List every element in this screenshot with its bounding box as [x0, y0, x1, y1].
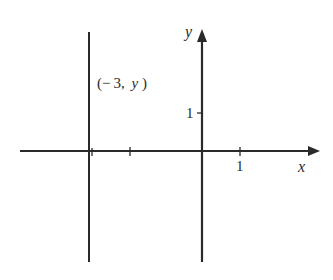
x-tick-label-1: 1 — [236, 158, 244, 174]
line-point-label: (− 3, y ) — [97, 75, 147, 92]
line-label-close: ) — [142, 75, 147, 92]
line-label-var: y — [129, 75, 138, 91]
x-axis-arrow-icon — [308, 146, 320, 156]
line-label-open: (− 3, — [97, 75, 125, 92]
y-tick-label-1: 1 — [186, 105, 194, 121]
y-axis — [197, 29, 207, 262]
y-axis-label: y — [183, 23, 193, 41]
y-axis-arrow-icon — [197, 29, 207, 42]
x-axis-label: x — [297, 158, 305, 175]
x-axis — [20, 146, 320, 156]
coordinate-plane: y x 1 1 (− 3, y ) — [0, 0, 333, 280]
